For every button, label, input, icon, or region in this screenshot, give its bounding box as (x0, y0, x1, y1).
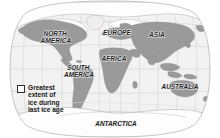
label-north-america-line2: AMERICA (40, 37, 72, 44)
label-south-america-line2: AMERICA (63, 71, 94, 78)
ice-extent-swatch (17, 85, 25, 93)
label-north-america-line1: NORTH (43, 30, 67, 37)
land-madagascar (133, 81, 137, 88)
label-north-america: NORTH AMERICA (40, 30, 72, 44)
land-japan (186, 41, 191, 47)
label-asia: ASIA (148, 31, 165, 38)
label-antarctica: ANTARCTICA (94, 120, 137, 127)
map-legend: Greatest extent of ice during last ice a… (17, 84, 85, 118)
label-south-america: SOUTH AMERICA (63, 64, 94, 78)
label-europe: EUROPE (103, 29, 131, 36)
label-africa: AFRICA (101, 55, 127, 62)
label-australia: AUSTRALIA (161, 83, 199, 90)
legend-label: Greatest extent of ice during last ice a… (28, 84, 64, 113)
world-map: NORTH AMERICA SOUTH AMERICA EUROPE AFRIC… (0, 0, 220, 138)
